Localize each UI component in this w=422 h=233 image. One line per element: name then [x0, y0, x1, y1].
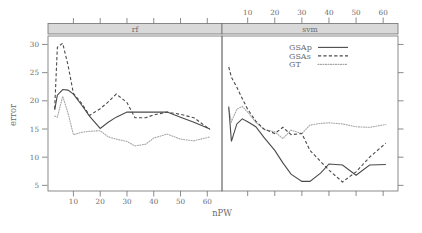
y-tick-label: 5 — [34, 181, 39, 190]
x-tick-label: 50 — [176, 197, 186, 206]
y-tick-label: 30 — [30, 40, 40, 49]
series-line-gsap — [55, 90, 210, 129]
x-axis-title: nPW — [212, 208, 232, 218]
x-tick-label: 40 — [324, 8, 334, 17]
legend-label-gt: GT — [289, 60, 301, 69]
series-line-gt — [55, 96, 210, 146]
x-tick-label: 50 — [351, 8, 361, 17]
x-tick-label: 40 — [149, 197, 159, 206]
panel-frame-rf — [48, 36, 222, 191]
y-tick-label: 10 — [30, 153, 40, 162]
x-tick-label: 30 — [297, 8, 307, 17]
y-tick-label: 20 — [30, 96, 40, 105]
series-group-rf — [55, 43, 210, 146]
series-group-svm — [229, 67, 386, 182]
strip-label-svm: svm — [302, 25, 317, 34]
y-tick-label: 15 — [30, 125, 40, 134]
series-line-gsas — [55, 43, 210, 129]
trellis-chart: 51015202530 error nPW rf svm 10203040506… — [0, 0, 422, 233]
y-axis-tick-marks — [42, 44, 404, 185]
x-tick-label: 10 — [69, 197, 79, 206]
y-axis-title: error — [8, 104, 18, 126]
chart-root: 51015202530 error nPW rf svm 10203040506… — [0, 0, 422, 233]
x-tick-label: 20 — [96, 197, 106, 206]
series-line-gt — [229, 106, 386, 138]
x-tick-label: 60 — [203, 197, 213, 206]
x-tick-label: 20 — [270, 8, 280, 17]
y-axis-tick-labels: 51015202530 — [30, 40, 40, 190]
x-tick-label: 30 — [122, 197, 132, 206]
x-tick-label: 60 — [379, 8, 389, 17]
y-tick-label: 25 — [30, 68, 40, 77]
x-tick-label: 10 — [243, 8, 253, 17]
legend: GSApGSAsGT — [289, 43, 348, 69]
